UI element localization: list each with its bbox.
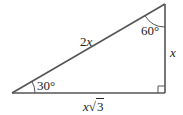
angle-arc-30 (32, 82, 35, 94)
sqrt-symbol: √ (89, 99, 96, 114)
right-angle-marker (158, 86, 165, 93)
hypotenuse-label: 2x (80, 35, 92, 48)
angle-label-30: 30° (37, 79, 55, 92)
vertical-leg-label: x (170, 46, 176, 59)
angle-label-60: 60° (141, 24, 159, 37)
right-triangle-diagram (0, 0, 183, 115)
hypotenuse-var: x (87, 34, 93, 49)
sqrt-radicand: 3 (96, 98, 105, 114)
horizontal-leg-label: x√3 (83, 100, 104, 113)
